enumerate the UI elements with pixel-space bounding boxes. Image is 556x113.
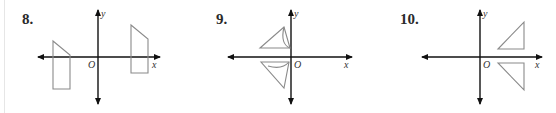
upper-triangle-shape: [498, 22, 524, 49]
svg-text:y: y: [293, 8, 299, 19]
figures: y O x y O x y O x: [0, 0, 556, 113]
problem-9-graph: y O x: [228, 8, 352, 104]
svg-text:x: x: [343, 59, 349, 70]
svg-text:O: O: [483, 59, 490, 70]
right-pentagon-shape: [131, 25, 148, 73]
x-label: x: [151, 59, 157, 70]
svg-text:y: y: [482, 8, 488, 19]
lower-arc: [268, 62, 289, 67]
y-label: y: [100, 8, 106, 19]
problem-8-graph: y O x: [38, 8, 160, 104]
svg-text:x: x: [534, 59, 540, 70]
problem-10-graph: y O x: [422, 8, 542, 104]
svg-text:O: O: [294, 59, 301, 70]
lower-triangle-shape: [498, 63, 524, 90]
left-pentagon-shape: [53, 41, 70, 89]
origin-label: O: [88, 59, 95, 70]
